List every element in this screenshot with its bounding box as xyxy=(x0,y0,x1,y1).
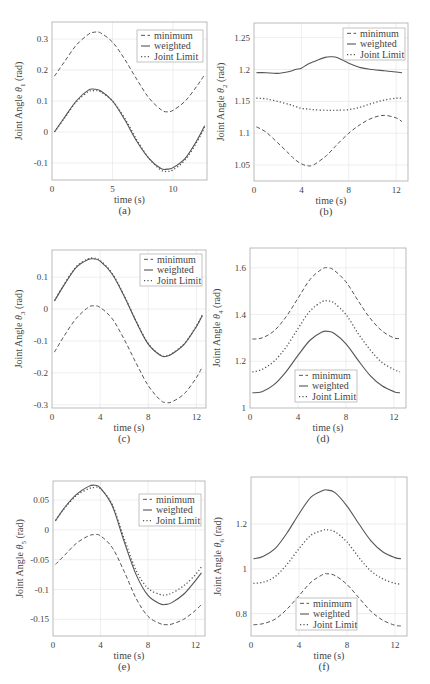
subplot-b: 048121.051.11.151.21.25time (s)(b)Joint … xyxy=(215,23,408,218)
y-axis-label: Joint Angle θ4 (rad) xyxy=(211,289,225,368)
y-tick-label: 1.2 xyxy=(239,65,250,75)
y-axis-label: Joint Angle θ5 (rad) xyxy=(14,519,28,598)
legend-label: weighted xyxy=(157,264,194,275)
chart-canvas: 0510-0.100.10.20.3time (s)(a)Joint Angle… xyxy=(0,0,430,684)
series-minimum xyxy=(252,268,400,339)
legend-label: Joint Limit xyxy=(313,619,357,630)
y-tick-label: 0.8 xyxy=(236,609,248,619)
x-tick-label: 5 xyxy=(110,184,115,194)
x-tick-label: 8 xyxy=(344,412,349,422)
y-tick-label: -0.3 xyxy=(34,400,49,410)
legend-label: minimum xyxy=(156,494,195,505)
y-axis-label: Joint Angle θ6 (rad) xyxy=(212,517,226,596)
x-tick-label: 12 xyxy=(192,412,201,422)
y-tick-label: 0.1 xyxy=(37,96,48,106)
x-tick-label: 12 xyxy=(391,640,400,650)
legend-label: weighted xyxy=(312,380,349,391)
x-tick-label: 8 xyxy=(146,412,151,422)
legend-label: Joint Limit xyxy=(156,515,200,526)
y-tick-label: 1 xyxy=(242,403,247,413)
legend: minimumweightedJoint Limit xyxy=(296,598,357,630)
x-tick-label: 0 xyxy=(252,185,257,195)
subplot-caption: (c) xyxy=(118,432,131,445)
y-tick-label: 1.2 xyxy=(235,356,246,366)
y-tick-label: 1.4 xyxy=(235,310,247,320)
subplot-caption: (d) xyxy=(317,432,330,445)
legend: minimumweightedJoint Limit xyxy=(139,494,201,526)
legend-label: weighted xyxy=(156,504,193,515)
legend-label: minimum xyxy=(313,598,352,609)
x-tick-label: 4 xyxy=(98,412,103,422)
series-minimum xyxy=(55,534,201,624)
legend: minimumweightedJoint Limit xyxy=(137,30,203,62)
x-tick-label: 0 xyxy=(50,184,55,194)
y-axis-label: Joint Angle θ3 (rad) xyxy=(13,290,27,369)
x-tick-label: 12 xyxy=(390,412,399,422)
legend-label: minimum xyxy=(312,370,351,381)
subplot-e: 04812-0.15-0.1-0.0500.05time (s)(e)Joint… xyxy=(14,481,205,673)
subplot-caption: (e) xyxy=(118,660,131,673)
legend-label: Joint Limit xyxy=(157,275,201,286)
y-tick-label: 0 xyxy=(45,525,50,535)
series-minimum xyxy=(256,115,402,166)
y-tick-label: -0.05 xyxy=(30,555,49,565)
x-tick-label: 12 xyxy=(191,640,200,650)
y-tick-label: -0.1 xyxy=(34,158,48,168)
series-joint-limit xyxy=(253,530,401,584)
legend-label: Joint Limit xyxy=(154,51,198,62)
y-tick-label: 0 xyxy=(44,127,49,137)
y-tick-label: 0 xyxy=(44,304,49,314)
x-tick-label: 8 xyxy=(347,185,352,195)
y-tick-label: 1.2 xyxy=(236,519,247,529)
y-tick-label: 0.1 xyxy=(37,272,48,282)
figure-joint-angles: 0510-0.100.10.20.3time (s)(a)Joint Angle… xyxy=(0,0,430,684)
legend-label: minimum xyxy=(360,28,399,39)
subplot-caption: (b) xyxy=(320,205,333,218)
x-tick-label: 4 xyxy=(297,640,302,650)
legend-label: Joint Limit xyxy=(312,391,356,402)
y-tick-label: -0.15 xyxy=(30,614,49,624)
legend: minimumweightedJoint Limit xyxy=(140,254,202,286)
x-tick-label: 4 xyxy=(299,185,304,195)
y-tick-label: 1.05 xyxy=(234,160,250,170)
series-joint-limit xyxy=(256,98,402,110)
legend-label: minimum xyxy=(154,30,193,41)
y-tick-label: -0.1 xyxy=(34,336,48,346)
subplot-c: 04812-0.3-0.2-0.100.1time (s)(c)Joint An… xyxy=(13,250,206,445)
y-tick-label: -0.2 xyxy=(34,368,48,378)
x-tick-label: 0 xyxy=(51,640,56,650)
legend-label: weighted xyxy=(360,38,397,49)
legend-label: weighted xyxy=(154,40,191,51)
subplot-caption: (a) xyxy=(118,204,131,217)
x-tick-label: 0 xyxy=(248,412,253,422)
x-tick-label: 8 xyxy=(345,640,350,650)
y-tick-label: -0.1 xyxy=(35,585,49,595)
y-tick-label: 1 xyxy=(243,564,248,574)
y-tick-label: 1.15 xyxy=(234,96,250,106)
y-tick-label: 1.6 xyxy=(235,263,247,273)
y-axis-label: Joint Angle θ2 (rad) xyxy=(215,63,229,142)
legend-label: Joint Limit xyxy=(360,49,404,60)
x-tick-label: 0 xyxy=(50,412,55,422)
y-tick-label: 1.25 xyxy=(234,33,250,43)
x-tick-label: 10 xyxy=(169,184,179,194)
series-minimum xyxy=(54,306,202,403)
legend: minimumweightedJoint Limit xyxy=(343,28,405,60)
legend-label: weighted xyxy=(313,608,350,619)
x-tick-label: 0 xyxy=(249,640,254,650)
y-tick-label: 1.1 xyxy=(239,128,250,138)
y-axis-label: Joint Angle θ1 (rad) xyxy=(13,62,27,141)
y-tick-label: 0.3 xyxy=(37,34,49,44)
subplot-d: 0481211.21.41.6time (s)(d)Joint Angle θ4… xyxy=(211,248,406,445)
legend-label: minimum xyxy=(157,254,196,265)
subplot-a: 0510-0.100.10.20.3time (s)(a)Joint Angle… xyxy=(13,22,207,217)
x-tick-label: 8 xyxy=(146,640,151,650)
legend: minimumweightedJoint Limit xyxy=(295,370,357,402)
x-tick-label: 12 xyxy=(392,185,401,195)
y-tick-label: 0.2 xyxy=(37,65,48,75)
x-tick-label: 4 xyxy=(98,640,103,650)
subplot-caption: (f) xyxy=(319,660,330,673)
y-tick-label: 0.05 xyxy=(33,495,49,505)
series-joint-limit xyxy=(54,91,204,172)
subplot-f: 048120.811.2time (s)(f)Joint Angle θ6 (r… xyxy=(212,477,407,673)
